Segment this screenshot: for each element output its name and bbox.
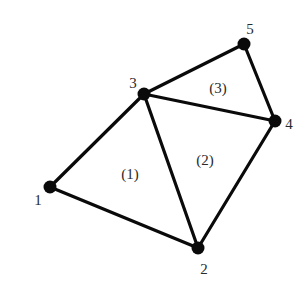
edge-1-2: [50, 187, 198, 248]
mesh-edges: [50, 44, 275, 248]
edge-5-4: [244, 44, 275, 121]
edge-3-2: [144, 94, 198, 248]
node-2-dot: [192, 242, 205, 255]
node-1-label: 1: [34, 192, 42, 208]
node-5-label: 5: [246, 21, 254, 37]
element-3-label: (3): [209, 80, 227, 97]
element-labels: (1)(2)(3): [121, 80, 227, 183]
edge-2-4: [198, 121, 275, 248]
edge-3-5: [144, 44, 244, 94]
mesh-diagram: 12345 (1)(2)(3): [0, 0, 307, 291]
node-4-label: 4: [285, 116, 293, 132]
edge-3-4: [144, 94, 275, 121]
node-1-dot: [44, 181, 57, 194]
element-2-label: (2): [196, 152, 214, 169]
node-4-dot: [269, 115, 282, 128]
node-2-label: 2: [200, 261, 208, 277]
node-5-dot: [238, 38, 251, 51]
element-1-label: (1): [121, 166, 139, 183]
node-3-dot: [138, 88, 151, 101]
node-3-label: 3: [129, 75, 137, 91]
